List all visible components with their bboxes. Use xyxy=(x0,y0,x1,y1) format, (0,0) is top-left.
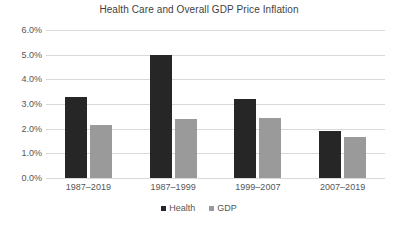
legend-swatch-icon xyxy=(161,206,166,211)
legend-swatch-icon xyxy=(209,206,214,211)
gridline xyxy=(46,55,385,56)
gridline xyxy=(46,30,385,31)
x-axis-category-label: 1987–2019 xyxy=(46,182,131,192)
legend-item-health[interactable]: Health xyxy=(161,203,195,213)
legend-item-gdp[interactable]: GDP xyxy=(209,203,237,213)
legend-label: Health xyxy=(169,203,195,213)
gridline xyxy=(46,79,385,80)
y-axis: 6.0%5.0%4.0%3.0%2.0%1.0%0.0% xyxy=(0,30,42,178)
x-axis-category-label: 1999–2007 xyxy=(216,182,301,192)
y-axis-tick-label: 1.0% xyxy=(4,148,42,158)
y-axis-tick-label: 2.0% xyxy=(4,124,42,134)
gridline xyxy=(46,178,385,179)
x-axis-category-label: 2007–2019 xyxy=(300,182,385,192)
bar-gdp-4[interactable] xyxy=(344,137,366,178)
bar-gdp-1[interactable] xyxy=(90,125,112,178)
bar-chart: Health Care and Overall GDP Price Inflat… xyxy=(0,0,398,231)
gridline xyxy=(46,104,385,105)
y-axis-tick-label: 0.0% xyxy=(4,173,42,183)
bar-gdp-3[interactable] xyxy=(259,118,281,178)
chart-legend: HealthGDP xyxy=(0,203,398,213)
legend-label: GDP xyxy=(217,203,237,213)
bar-health-3[interactable] xyxy=(234,99,256,178)
y-axis-tick-label: 3.0% xyxy=(4,99,42,109)
bar-health-4[interactable] xyxy=(319,131,341,178)
x-axis-category-label: 1987–1999 xyxy=(131,182,216,192)
y-axis-tick-label: 4.0% xyxy=(4,74,42,84)
plot-area xyxy=(46,30,385,178)
chart-title: Health Care and Overall GDP Price Inflat… xyxy=(0,4,398,15)
bar-health-2[interactable] xyxy=(150,55,172,178)
bar-gdp-2[interactable] xyxy=(175,119,197,178)
y-axis-tick-label: 5.0% xyxy=(4,50,42,60)
bar-health-1[interactable] xyxy=(65,97,87,178)
y-axis-tick-label: 6.0% xyxy=(4,25,42,35)
